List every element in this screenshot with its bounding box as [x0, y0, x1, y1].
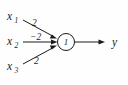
input-label-x1: x 1: [6, 10, 18, 25]
input-label-x3: x 3: [6, 60, 19, 75]
arrow-head-x2: [51, 40, 58, 45]
weight-label-x2: −2: [30, 32, 41, 42]
neuron-diagram: 1 x 1 x 2 x 3 2 −2 2 y: [0, 0, 128, 85]
weight-label-x1: 2: [32, 18, 37, 28]
edge-node-to-output: [75, 40, 106, 45]
input-label-x3-base: x: [6, 60, 13, 72]
input-label-x2-subscript: 2: [15, 41, 19, 50]
input-label-x2: x 2: [6, 35, 19, 50]
edge-x3-to-node: [23, 45, 57, 64]
arrow-head-output: [99, 40, 106, 45]
neuron-schematic-svg: 1 x 1 x 2 x 3 2 −2 2 y: [0, 0, 128, 85]
input-label-x1-subscript: 1: [15, 16, 19, 25]
input-label-x2-base: x: [6, 35, 13, 47]
output-label-y: y: [111, 36, 118, 49]
weight-label-x3: 2: [34, 56, 39, 66]
neuron-node-label: 1: [64, 37, 69, 47]
input-label-x1-base: x: [6, 10, 13, 22]
input-label-x3-subscript: 3: [14, 66, 19, 75]
